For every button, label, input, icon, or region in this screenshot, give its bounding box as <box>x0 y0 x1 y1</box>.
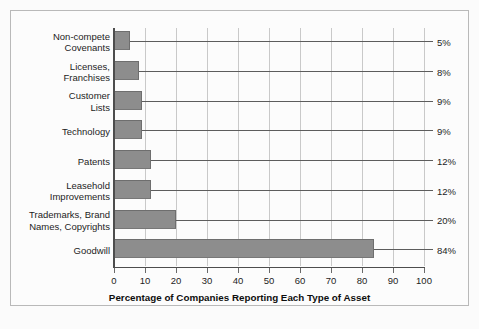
bar[interactable] <box>114 61 139 80</box>
leader-line <box>151 160 433 161</box>
value-label: 8% <box>437 67 469 78</box>
x-tick <box>269 268 270 273</box>
bar[interactable] <box>114 239 374 258</box>
bar-row <box>114 88 424 118</box>
category-label: Technology <box>4 126 110 138</box>
chart-figure: Percentage of Companies Reporting Each T… <box>0 0 479 329</box>
category-label: Non-competeCovenants <box>4 31 110 54</box>
category-label: Patents <box>4 156 110 168</box>
value-label: 20% <box>437 215 469 226</box>
x-axis-title: Percentage of Companies Reporting Each T… <box>0 292 479 303</box>
category-label: CustomerLists <box>4 90 110 113</box>
bar-row <box>114 58 424 88</box>
value-label: 84% <box>437 245 469 256</box>
bar[interactable] <box>114 91 142 110</box>
leader-line <box>151 190 433 191</box>
category-label-line: Covenants <box>4 42 110 54</box>
category-label-line: Trademarks, Brand <box>4 209 110 221</box>
x-tick <box>331 268 332 273</box>
bar-row <box>114 236 424 266</box>
x-tick <box>145 268 146 273</box>
x-tick <box>114 268 115 273</box>
leader-line <box>176 220 433 221</box>
category-label-line: Franchises <box>4 72 110 84</box>
value-label: 5% <box>437 37 469 48</box>
x-tick <box>424 268 425 273</box>
bar[interactable] <box>114 31 130 50</box>
bar-row <box>114 147 424 177</box>
value-label: 12% <box>437 186 469 197</box>
leader-line <box>139 71 433 72</box>
category-label-line: Leasehold <box>4 180 110 192</box>
gridline-100 <box>424 28 425 266</box>
x-tick <box>393 268 394 273</box>
value-label: 12% <box>437 156 469 167</box>
x-tick-label: 100 <box>404 275 444 286</box>
bar[interactable] <box>114 210 176 229</box>
x-tick <box>176 268 177 273</box>
category-label-line: Names, Copyrights <box>4 221 110 233</box>
category-label-line: Improvements <box>4 191 110 203</box>
bar[interactable] <box>114 150 151 169</box>
category-label-line: Customer <box>4 90 110 102</box>
y-axis-line <box>113 28 115 268</box>
x-tick <box>362 268 363 273</box>
category-label: LeaseholdImprovements <box>4 180 110 203</box>
category-label-line: Patents <box>4 156 110 168</box>
value-label: 9% <box>437 126 469 137</box>
category-label-line: Lists <box>4 102 110 114</box>
category-label-line: Technology <box>4 126 110 138</box>
leader-line <box>130 41 434 42</box>
x-tick <box>238 268 239 273</box>
category-label: Licenses,Franchises <box>4 61 110 84</box>
category-label-line: Licenses, <box>4 61 110 73</box>
category-label-line: Non-compete <box>4 31 110 43</box>
bar-row <box>114 207 424 237</box>
leader-line <box>142 130 433 131</box>
bar-row <box>114 177 424 207</box>
x-tick <box>207 268 208 273</box>
leader-line <box>142 101 433 102</box>
bar[interactable] <box>114 120 142 139</box>
plot-area <box>114 28 424 266</box>
category-label-line: Goodwill <box>4 245 110 257</box>
bar-row <box>114 117 424 147</box>
category-label: Goodwill <box>4 245 110 257</box>
bar-row <box>114 28 424 58</box>
category-label: Trademarks, BrandNames, Copyrights <box>4 209 110 232</box>
leader-line <box>374 249 433 250</box>
value-label: 9% <box>437 96 469 107</box>
bar[interactable] <box>114 180 151 199</box>
x-tick <box>300 268 301 273</box>
